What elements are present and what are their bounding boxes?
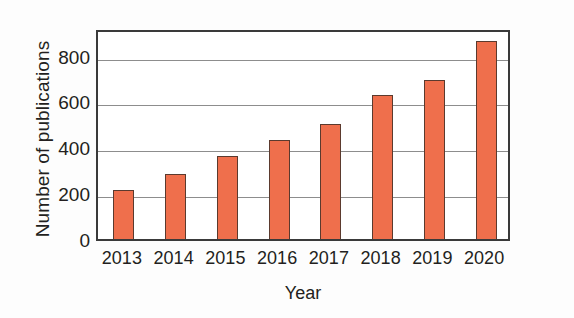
bar-chart-figure: Number of publications 0200400600800 201…: [0, 0, 574, 318]
x-tick-label: 2014: [154, 248, 194, 269]
x-tick-label: 2020: [464, 248, 504, 269]
gridline: [98, 151, 508, 152]
gridline: [98, 197, 508, 198]
bar: [320, 124, 341, 239]
plot-area: [96, 30, 510, 241]
y-tick-label: 600: [30, 92, 90, 114]
x-axis-title: Year: [96, 283, 510, 304]
bar: [269, 140, 290, 239]
bar: [372, 95, 393, 239]
y-tick-label: 400: [30, 138, 90, 160]
y-tick-label: 0: [30, 230, 90, 252]
x-tick-label: 2017: [309, 248, 349, 269]
x-tick-label: 2016: [257, 248, 297, 269]
bar: [113, 190, 134, 239]
x-tick-label: 2015: [205, 248, 245, 269]
bar: [165, 174, 186, 239]
bar: [476, 41, 497, 239]
bar: [424, 80, 445, 239]
x-tick-label: 2018: [361, 248, 401, 269]
y-tick-label: 200: [30, 184, 90, 206]
x-tick-label: 2013: [102, 248, 142, 269]
y-tick-label: 800: [30, 47, 90, 69]
bar: [217, 156, 238, 239]
x-tick-label: 2019: [412, 248, 452, 269]
gridline: [98, 60, 508, 61]
gridline: [98, 105, 508, 106]
